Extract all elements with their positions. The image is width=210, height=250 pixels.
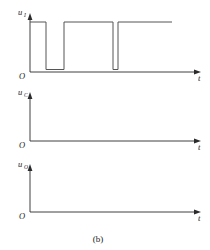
panel-ui-waveform-trace [30, 22, 172, 70]
panel-uc-origin-label: O [19, 140, 25, 150]
panel-ui-time-label: t [198, 73, 201, 83]
panel-uc-time-label: t [198, 142, 201, 152]
panel-uc-signal-label: u [18, 87, 22, 97]
panel-uo-signal-label: u [18, 159, 22, 169]
panel-ui-y-axis-arrowhead [28, 13, 33, 20]
panel-ui-signal-subscript: I [23, 12, 27, 18]
panel-uo-signal-subscript: O [24, 164, 28, 170]
panel-uc-y-axis-arrowhead [28, 92, 33, 99]
panel-uc-signal-subscript: C [24, 92, 28, 98]
panel-uo-origin-label: O [19, 211, 25, 221]
panel-uc: u C O t [18, 87, 201, 152]
panel-uo: u O O t [18, 159, 201, 223]
waveform-figure-container: u I O t u C O t u O O t (b) [0, 0, 210, 250]
panel-ui: u I O t [18, 7, 201, 83]
waveform-figure: u I O t u C O t u O O t (b) [0, 0, 210, 250]
panel-uo-time-label: t [198, 213, 201, 223]
panel-ui-origin-label: O [19, 71, 25, 81]
figure-caption: (b) [93, 234, 104, 244]
panel-ui-signal-label: u [18, 7, 22, 17]
panel-uo-y-axis-arrowhead [28, 164, 33, 171]
